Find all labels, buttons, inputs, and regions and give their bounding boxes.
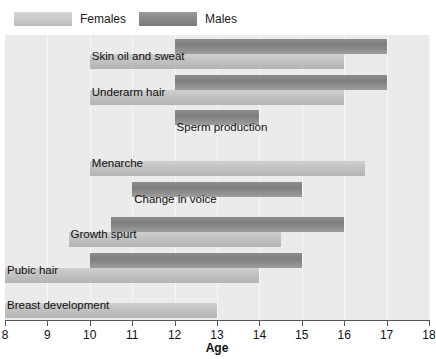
x-axis-tick-label: 9 <box>44 328 51 342</box>
x-axis-tick-label: 13 <box>210 328 223 342</box>
legend-label-females: Females <box>80 10 126 28</box>
x-axis-tick-label: 8 <box>2 328 9 342</box>
x-axis: 89101112131415161718 <box>5 320 429 328</box>
row-label: Breast development <box>7 299 109 312</box>
row-label: Skin oil and sweat <box>92 50 185 63</box>
x-axis-tick <box>302 320 303 326</box>
bar-male <box>175 75 387 90</box>
legend-swatch-females <box>14 12 72 26</box>
x-axis-tick-label: 10 <box>83 328 96 342</box>
chart-row: Change in voice <box>5 178 429 214</box>
bar-male <box>175 39 387 54</box>
chart-row: Menarche <box>5 142 429 178</box>
x-axis-tick <box>90 320 91 326</box>
x-axis-tick <box>344 320 345 326</box>
x-axis-tick-label: 11 <box>126 328 138 342</box>
x-axis-tick <box>387 320 388 326</box>
legend-swatch-males <box>139 12 197 26</box>
chart-row: Pubic hair <box>5 249 429 285</box>
bar-male <box>111 217 344 232</box>
x-axis-tick <box>47 320 48 326</box>
row-label: Menarche <box>92 157 143 170</box>
x-axis-tick <box>259 320 260 326</box>
x-axis-tick <box>217 320 218 326</box>
row-label: Sperm production <box>177 121 268 134</box>
chart-plot-area: Skin oil and sweatUnderarm hairSperm pro… <box>5 35 429 320</box>
chart-row: Underarm hair <box>5 71 429 107</box>
x-axis-tick-label: 12 <box>168 328 181 342</box>
x-axis-title: Age <box>0 341 434 355</box>
x-axis-tick-label: 14 <box>253 328 266 342</box>
x-axis-tick <box>5 320 6 326</box>
chart-row: Growth spurt <box>5 213 429 249</box>
chart-row: Skin oil and sweat <box>5 35 429 71</box>
x-axis-tick <box>429 320 430 326</box>
x-axis-tick-label: 18 <box>422 328 435 342</box>
row-label: Change in voice <box>134 193 216 206</box>
x-axis-tick <box>175 320 176 326</box>
x-axis-tick-label: 16 <box>338 328 351 342</box>
row-label: Growth spurt <box>71 228 137 241</box>
x-axis-tick <box>132 320 133 326</box>
chart-legend: Females Males <box>0 10 434 30</box>
x-axis-tick-label: 15 <box>295 328 308 342</box>
row-label: Pubic hair <box>7 264 58 277</box>
gridline <box>429 35 430 320</box>
legend-label-males: Males <box>205 10 237 28</box>
chart-row: Sperm production <box>5 106 429 142</box>
x-axis-tick-label: 17 <box>380 328 393 342</box>
chart-row: Breast development <box>5 284 429 320</box>
bar-male <box>90 253 302 268</box>
row-label: Underarm hair <box>92 86 166 99</box>
